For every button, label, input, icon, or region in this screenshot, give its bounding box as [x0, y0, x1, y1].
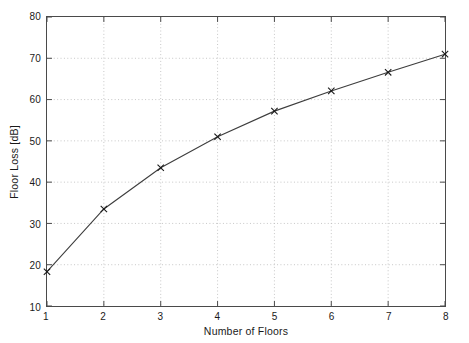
y-tick-label: 60 — [29, 94, 41, 105]
x-tick-label: 1 — [43, 311, 49, 322]
y-tick-label: 30 — [29, 218, 41, 229]
data-point-marker — [158, 165, 164, 171]
data-point-marker — [328, 88, 334, 94]
x-tick-label: 8 — [443, 311, 449, 322]
y-tick-label: 40 — [29, 177, 41, 188]
y-tick-label: 10 — [29, 302, 41, 313]
x-tick-label: 2 — [100, 311, 106, 322]
figure-canvas: Floor Loss [dB] 1020304050607080 1234567… — [0, 0, 469, 343]
data-point-marker — [44, 269, 50, 275]
data-series-layer — [47, 17, 445, 306]
x-tick-label: 7 — [386, 311, 392, 322]
data-point-marker — [442, 51, 448, 57]
data-point-marker — [214, 134, 220, 140]
x-tick-label: 6 — [329, 311, 335, 322]
y-axis-tick-labels: 1020304050607080 — [0, 16, 41, 307]
data-point-marker — [271, 108, 277, 114]
data-line — [47, 54, 445, 272]
y-tick-label: 80 — [29, 11, 41, 22]
data-point-marker — [385, 69, 391, 75]
y-tick-label: 50 — [29, 135, 41, 146]
x-tick-label: 5 — [272, 311, 278, 322]
y-tick-label: 70 — [29, 52, 41, 63]
y-tick-label: 20 — [29, 260, 41, 271]
x-axis-label: Number of Floors — [46, 325, 446, 337]
x-tick-label: 3 — [157, 311, 163, 322]
plot-area — [46, 16, 446, 307]
data-point-marker — [101, 206, 107, 212]
x-tick-label: 4 — [215, 311, 221, 322]
